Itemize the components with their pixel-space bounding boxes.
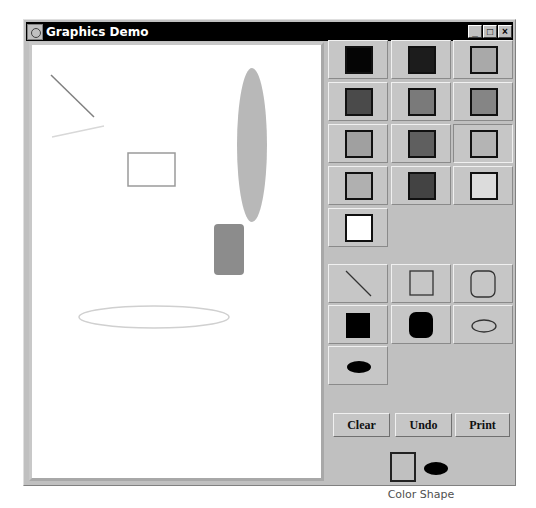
color-button-very-light-gray[interactable] xyxy=(453,166,513,205)
color-swatch xyxy=(470,172,498,200)
color-swatch xyxy=(408,46,436,74)
color-button-gray[interactable] xyxy=(391,82,451,121)
rectangle-icon xyxy=(392,265,450,302)
filled-rectangle-icon xyxy=(329,306,387,343)
color-button-medium-gray[interactable] xyxy=(453,82,513,121)
filled-oval-icon xyxy=(329,347,387,384)
color-swatch xyxy=(345,214,373,242)
color-button-light-gray-2[interactable] xyxy=(453,124,513,163)
print-button[interactable]: Print xyxy=(455,413,510,437)
clear-button[interactable]: Clear xyxy=(333,413,390,437)
color-swatch xyxy=(345,88,373,116)
minimize-button[interactable]: _ xyxy=(468,25,482,38)
line-icon xyxy=(329,265,387,302)
color-button-gray-2[interactable] xyxy=(391,124,451,163)
shape-button-line[interactable] xyxy=(328,264,388,303)
current-selection-label: Color Shape xyxy=(328,488,514,501)
color-button-dark-gray-2[interactable] xyxy=(391,166,451,205)
color-button-light-gray-3[interactable] xyxy=(328,166,388,205)
color-button-dark-gray-1[interactable] xyxy=(391,40,451,79)
title-bar[interactable]: Graphics Demo _ □ × xyxy=(26,22,513,41)
color-swatch xyxy=(345,130,373,158)
shape-button-filled-oval[interactable] xyxy=(328,346,388,385)
canvas-shape-ellipse xyxy=(237,68,267,222)
window-title: Graphics Demo xyxy=(46,25,148,39)
color-swatch xyxy=(408,130,436,158)
color-button-dim-gray[interactable] xyxy=(328,82,388,121)
app-icon[interactable] xyxy=(27,24,43,40)
color-button-white[interactable] xyxy=(328,208,388,247)
color-swatch xyxy=(408,88,436,116)
canvas-shape-ellipse xyxy=(79,306,229,328)
shape-button-rounded-rectangle[interactable] xyxy=(453,264,513,303)
color-swatch xyxy=(470,46,498,74)
shape-button-filled-rectangle[interactable] xyxy=(328,305,388,344)
color-swatch xyxy=(345,46,373,74)
color-swatch xyxy=(345,172,373,200)
filled-rounded-rectangle-icon xyxy=(392,306,450,343)
shape-button-rectangle[interactable] xyxy=(391,264,451,303)
color-button-black[interactable] xyxy=(328,40,388,79)
undo-button[interactable]: Undo xyxy=(395,413,452,437)
color-button-silver[interactable] xyxy=(453,40,513,79)
color-swatch xyxy=(408,172,436,200)
rounded-rectangle-icon xyxy=(454,265,512,302)
color-swatch xyxy=(470,130,498,158)
color-button-light-gray-1[interactable] xyxy=(328,124,388,163)
shape-button-oval[interactable] xyxy=(453,305,513,344)
canvas-shape-line xyxy=(52,126,104,137)
graphics-demo-window: Graphics Demo _ □ × Clear Undo Print Col… xyxy=(23,19,516,486)
canvas-drawing xyxy=(32,45,321,478)
color-swatch xyxy=(470,88,498,116)
drawing-canvas[interactable] xyxy=(29,42,324,481)
canvas-shape-rect xyxy=(128,153,175,186)
canvas-shape-roundrect xyxy=(214,224,244,275)
canvas-shape-line xyxy=(51,75,94,117)
close-button[interactable]: × xyxy=(498,25,512,38)
current-color-indicator xyxy=(390,452,416,482)
current-shape-filled-oval-icon xyxy=(424,462,448,475)
oval-icon xyxy=(454,306,512,343)
shape-button-filled-rounded-rectangle[interactable] xyxy=(391,305,451,344)
tool-panel: Clear Undo Print Color Shape xyxy=(328,40,514,485)
maximize-button[interactable]: □ xyxy=(483,25,497,38)
